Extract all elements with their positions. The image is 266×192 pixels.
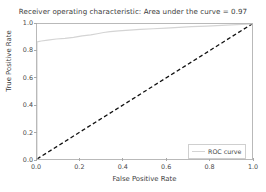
series-group bbox=[37, 24, 252, 159]
legend-label-roc-curve: ROC curve bbox=[208, 148, 241, 155]
x-tick-label: 0.8 bbox=[198, 163, 222, 171]
x-tick-label: 0.6 bbox=[154, 163, 178, 171]
y-tick-mark bbox=[34, 50, 37, 51]
chance-diagonal-line bbox=[37, 24, 252, 159]
legend-box: ROC curve bbox=[188, 144, 246, 159]
y-tick-label: 1.0 bbox=[14, 19, 33, 27]
x-tick-mark bbox=[253, 158, 254, 161]
y-tick-mark bbox=[34, 77, 37, 78]
x-tick-label: 0.4 bbox=[111, 163, 135, 171]
x-tick-mark bbox=[166, 158, 167, 161]
y-tick-mark bbox=[34, 132, 37, 133]
plot-canvas bbox=[37, 24, 252, 159]
y-tick-label: 0.4 bbox=[14, 101, 33, 109]
y-tick-mark bbox=[34, 105, 37, 106]
x-tick-label: 0.2 bbox=[67, 163, 91, 171]
roc-chart-figure: Receiver operating characteristic: Area … bbox=[0, 0, 266, 192]
chart-title: Receiver operating characteristic: Area … bbox=[0, 7, 266, 16]
x-tick-label: 0.0 bbox=[24, 163, 48, 171]
plot-area bbox=[36, 23, 253, 160]
legend-line-sample-roc-curve bbox=[192, 151, 205, 152]
x-axis-title: False Positive Rate bbox=[36, 175, 253, 183]
x-tick-mark bbox=[122, 158, 123, 161]
x-tick-label: 1.0 bbox=[241, 163, 265, 171]
y-tick-label: 0.8 bbox=[14, 46, 33, 54]
x-tick-mark bbox=[36, 158, 37, 161]
y-tick-label: 0.6 bbox=[14, 74, 33, 82]
y-tick-label: 0.2 bbox=[14, 129, 33, 137]
x-tick-mark bbox=[79, 158, 80, 161]
y-tick-mark bbox=[34, 23, 37, 24]
y-axis-title: True Positive Rate bbox=[5, 26, 13, 96]
